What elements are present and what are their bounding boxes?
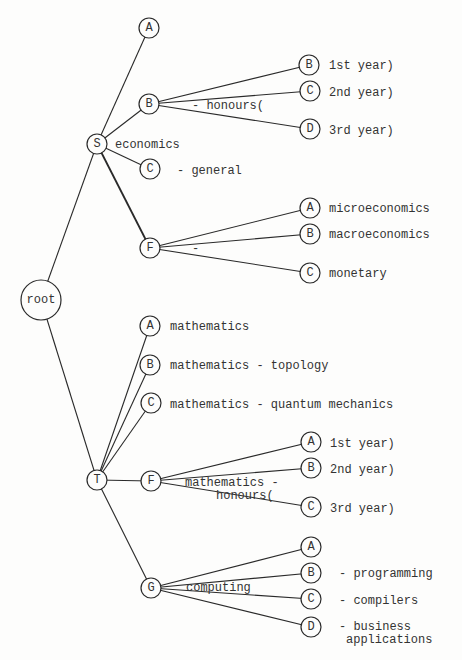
node-tfa: A: [301, 432, 321, 452]
node-sfc: C: [300, 263, 320, 283]
node-label: D: [306, 122, 313, 136]
edge-sf-sfa: [150, 208, 310, 248]
label-math-3rd-year: 3rd year): [330, 502, 395, 516]
node-tb: B: [140, 355, 160, 375]
label-general: - general: [177, 164, 242, 178]
node-sfa: A: [300, 198, 320, 218]
node-tga: A: [301, 537, 321, 557]
label-math-honours-1: mathematics -: [185, 476, 279, 490]
edge-t-tg: [97, 480, 151, 588]
label-business: - business: [339, 620, 411, 634]
node-label: F: [147, 474, 154, 488]
node-label: B: [306, 227, 313, 241]
node-label: C: [307, 592, 314, 606]
node-sfb: B: [300, 224, 320, 244]
node-label: A: [145, 21, 153, 35]
label-econ-3rd-year: 3rd year): [329, 124, 394, 138]
node-tgb: B: [301, 563, 321, 583]
node-sf: F: [140, 238, 160, 258]
node-sbb: B: [299, 55, 319, 75]
label-applications: applications: [346, 633, 432, 647]
label-math-honours-2: honours(: [216, 489, 274, 503]
edge-s-sa: [97, 28, 149, 144]
node-s: S: [87, 134, 107, 154]
node-label: B: [305, 58, 312, 72]
label-computing: computing: [186, 581, 251, 595]
edge-t-tb: [97, 365, 150, 480]
node-label: B: [146, 358, 153, 372]
node-label: A: [146, 319, 154, 333]
label-math-2nd-year: 2nd year): [330, 463, 395, 477]
node-tg: G: [141, 578, 161, 598]
node-label: F: [146, 241, 153, 255]
node-sa: A: [139, 18, 159, 38]
node-root: root: [21, 280, 61, 320]
edge-root-t: [41, 300, 97, 480]
label-programming: - programming: [339, 567, 433, 581]
edge-t-tc: [97, 403, 151, 480]
node-label: A: [306, 201, 314, 215]
node-t: T: [87, 470, 107, 490]
node-tf: F: [141, 471, 161, 491]
label-honours-econ: - honours(: [192, 99, 264, 113]
node-sb: B: [139, 94, 159, 114]
node-tfb: B: [301, 458, 321, 478]
label-economics: economics: [115, 138, 180, 152]
label-econ-1st-year: 1st year): [329, 59, 394, 73]
node-label: C: [307, 500, 314, 514]
node-label: D: [307, 620, 314, 634]
label-f-dash: -: [192, 242, 199, 256]
edge-s-sf: [97, 144, 150, 248]
node-label: C: [306, 266, 313, 280]
node-ta: A: [140, 316, 160, 336]
node-tc: C: [141, 393, 161, 413]
edge-sf-sfc: [150, 248, 310, 273]
node-label: C: [146, 162, 153, 176]
node-label: C: [147, 396, 154, 410]
node-label: G: [147, 581, 154, 595]
node-label: C: [306, 84, 313, 98]
label-topology: mathematics - topology: [170, 359, 328, 373]
node-label: A: [307, 540, 315, 554]
node-label: A: [307, 435, 315, 449]
node-sbd: D: [300, 119, 320, 139]
node-label: T: [93, 473, 100, 487]
annotation-labels: economics - honours( 1st year) 2nd year)…: [115, 59, 433, 647]
node-tgd: D: [301, 617, 321, 637]
node-label: B: [307, 461, 314, 475]
edge-root-s: [41, 144, 97, 300]
label-microeconomics: microeconomics: [329, 202, 430, 216]
edge-sf-sfb: [150, 234, 310, 248]
label-macroeconomics: macroeconomics: [329, 228, 430, 242]
node-label: B: [145, 97, 152, 111]
node-sc: C: [140, 159, 160, 179]
label-monetary: monetary: [329, 267, 387, 281]
tree-diagram: rootSABCFBCDABCTABCFGABCABCD economics -…: [0, 0, 462, 660]
label-quantum-mechanics: mathematics - quantum mechanics: [170, 398, 393, 412]
node-label: B: [307, 566, 314, 580]
node-sbc: C: [300, 81, 320, 101]
node-tfc: C: [301, 497, 321, 517]
label-mathematics: mathematics: [170, 320, 249, 334]
label-compilers: - compilers: [339, 594, 418, 608]
node-label: S: [93, 137, 100, 151]
label-math-1st-year: 1st year): [330, 437, 395, 451]
label-econ-2nd-year: 2nd year): [329, 86, 394, 100]
node-tgc: C: [301, 589, 321, 609]
node-label: root: [27, 293, 56, 307]
